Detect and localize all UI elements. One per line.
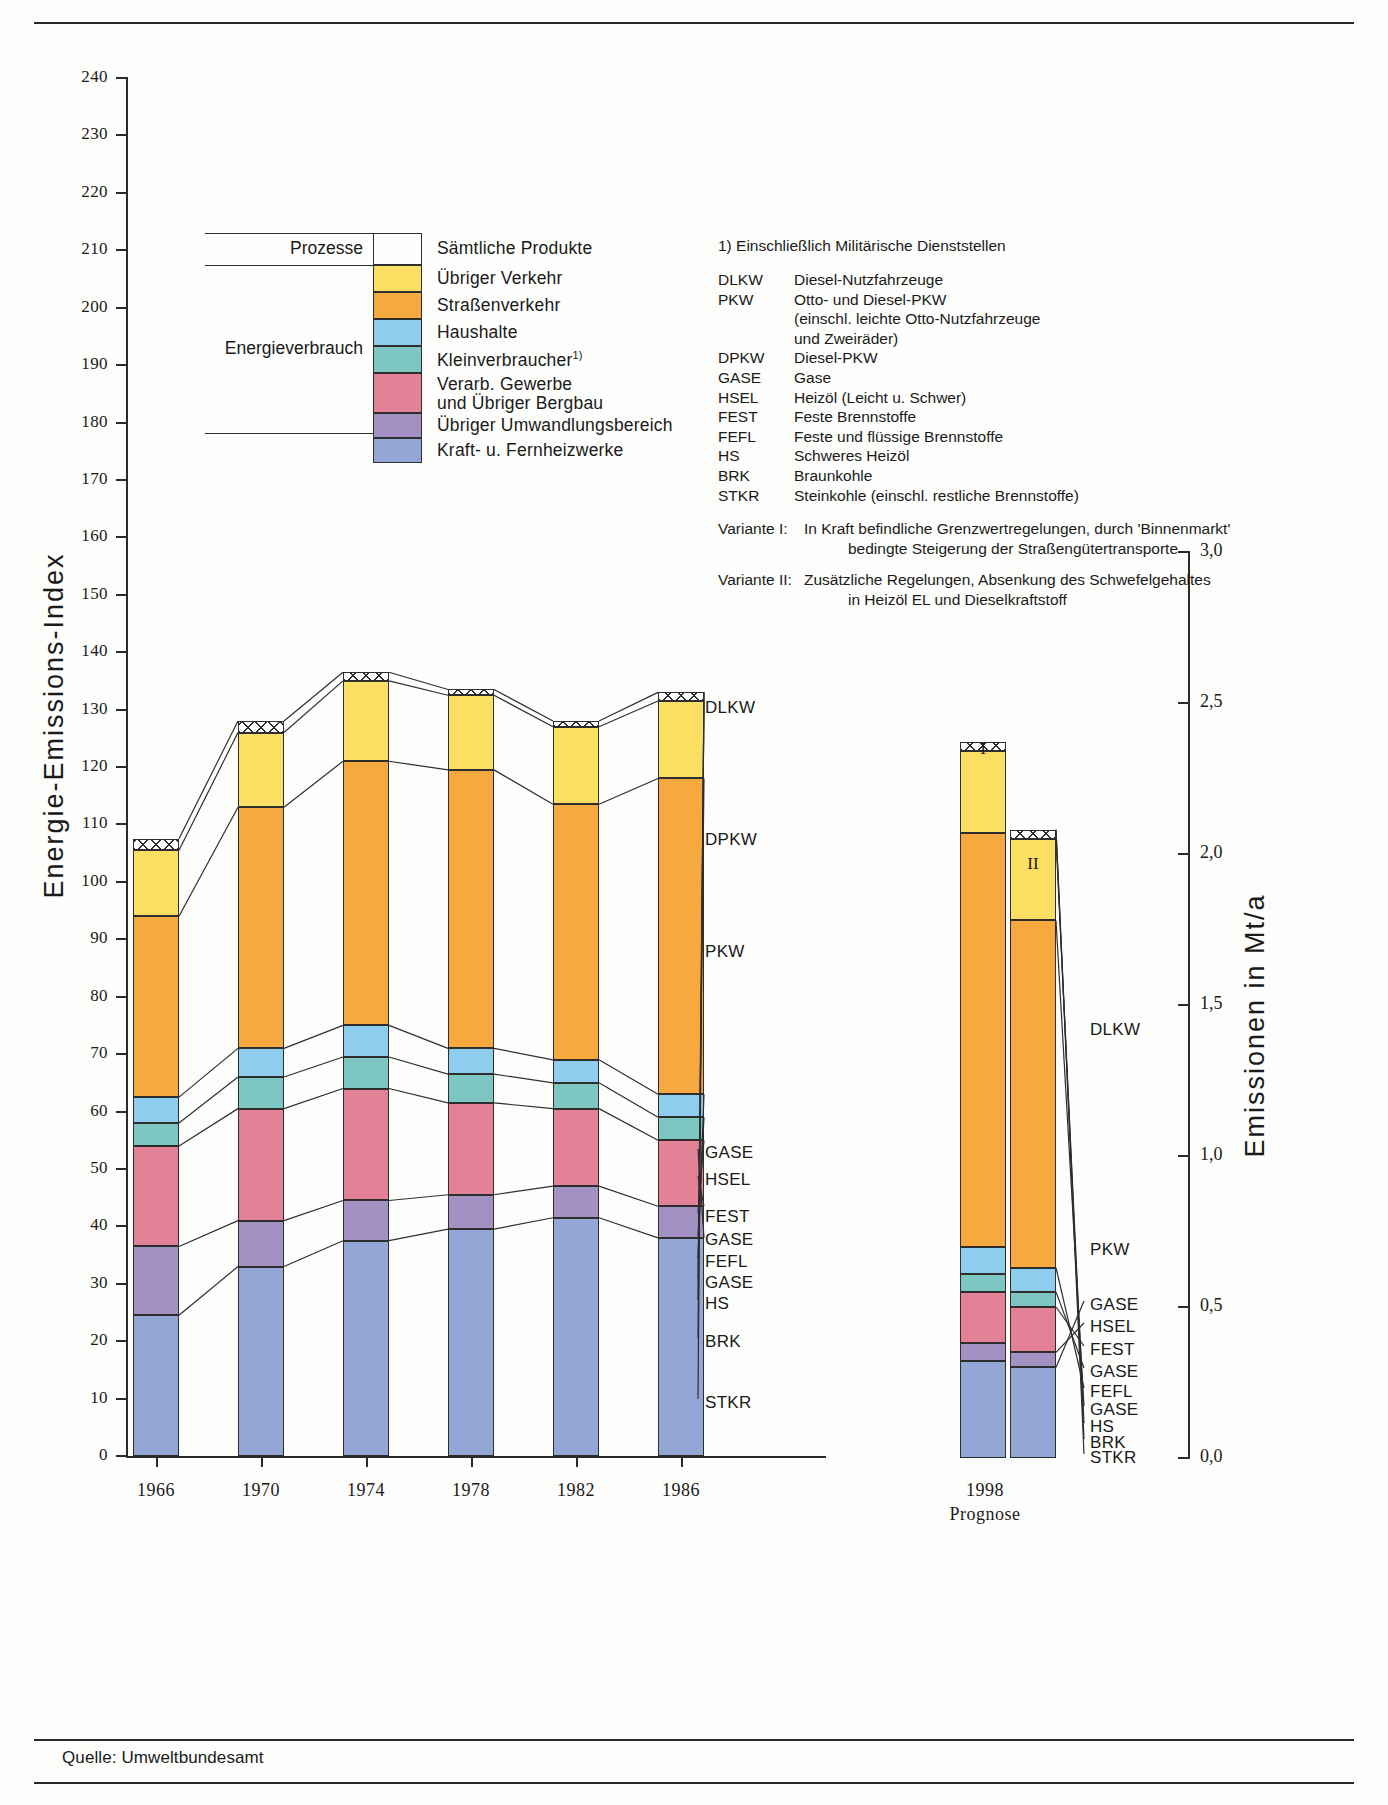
abbreviation-value: Steinkohle (einschl. restliche Brennstof… [794,486,1079,506]
legend-label-uebriger-umwandlungsbereich: Übriger Umwandlungsbereich [437,415,673,436]
x-tick-label: 1986 [641,1480,721,1501]
abbreviation-value: Gase [794,368,831,388]
abbreviation-row: BRKBraunkohle [718,466,1358,486]
y-tick-label: 150 [34,584,108,604]
bar-segment [658,1117,704,1140]
y-tick-label: 90 [34,928,108,948]
y-tick-label: 220 [34,182,108,202]
callout-label: FEFL [705,1252,748,1272]
abbreviation-row: PKWOtto- und Diesel-PKW [718,290,1358,310]
abbreviation-row: DPKWDiesel-PKW [718,348,1358,368]
bottom-divider [34,1739,1354,1741]
y-tick-mark [116,938,128,940]
abbreviation-row: STKRSteinkohle (einschl. restliche Brenn… [718,486,1358,506]
y-tick-label-right: 3,0 [1200,540,1223,561]
callout-label: FEST [705,1207,750,1227]
y-tick-mark [116,709,128,711]
y-tick-mark [116,134,128,136]
abbreviation-row: HSELHeizöl (Leicht u. Schwer) [718,388,1358,408]
legend-label-uebriger-verkehr: Übriger Verkehr [437,268,563,289]
y-tick-mark-right [1178,551,1190,553]
variant-marker: II [1018,854,1048,874]
bar-segment [133,850,179,916]
prozesse-label: Prozesse [205,238,363,259]
x-axis [126,1456,826,1458]
abbreviation-row: (einschl. leichte Otto-Nutzfahrzeuge [718,309,1358,329]
callout-label-forecast: GASE [1090,1295,1138,1315]
y-tick-mark [116,364,128,366]
abbreviation-key: GASE [718,368,792,388]
y-tick-mark [116,192,128,194]
y-tick-label: 240 [34,67,108,87]
y-tick-mark-right [1178,1155,1190,1157]
legend-label-strassenverkehr: Straßenverkehr [437,295,560,316]
bar-segment [133,1246,179,1315]
y-tick-mark [116,307,128,309]
bar-segment [448,695,494,770]
legend-swatch-uebriger-verkehr [373,265,422,292]
y-tick-mark [116,766,128,768]
y-tick-label: 130 [34,699,108,719]
energieverbrauch-brace-top [205,265,373,266]
y-tick-label-right: 2,5 [1200,691,1223,712]
bar-segment [1010,1268,1056,1292]
callout-label: DPKW [705,830,757,850]
y-tick-mark [116,249,128,251]
y-tick-label: 20 [34,1330,108,1350]
bar-segment [960,751,1006,833]
callout-label: BRK [705,1332,741,1352]
y-tick-mark [116,1225,128,1227]
abbreviation-key: HSEL [718,388,792,408]
y-tick-label: 50 [34,1158,108,1178]
bar-segment [960,1343,1006,1361]
y-tick-label: 190 [34,354,108,374]
y-tick-label: 70 [34,1043,108,1063]
y-tick-mark [116,1168,128,1170]
variant-line-2: bedingte Steigerung der Straßengütertran… [848,539,1178,559]
y-tick-label: 10 [34,1388,108,1408]
abbreviation-value: Braunkohle [794,466,872,486]
bar-segment [553,1083,599,1109]
chart-page: Quelle: Umweltbundesamt Energie-Emission… [0,0,1388,1805]
x-tick-label: 1982 [536,1480,616,1501]
abbreviation-row: FESTFeste Brennstoffe [718,407,1358,427]
callout-label-forecast: PKW [1090,1240,1130,1260]
bar-segment [238,1267,284,1456]
bar-segment [238,1048,284,1077]
legend-swatch-haushalte [373,319,422,346]
y-tick-mark [116,536,128,538]
bar-segment [448,1195,494,1229]
energieverbrauch-brace-bottom [205,433,373,434]
callout-label-forecast: FEFL [1090,1382,1133,1402]
legend-label-haushalte: Haushalte [437,322,518,343]
y-tick-mark [116,1053,128,1055]
x-tick-mark [366,1456,368,1467]
y-tick-label: 100 [34,871,108,891]
abbreviation-value: (einschl. leichte Otto-Nutzfahrzeuge [794,309,1040,329]
y-tick-label: 230 [34,124,108,144]
bar-segment [553,727,599,805]
y-tick-label-right: 2,0 [1200,842,1223,863]
callout-label: STKR [705,1393,752,1413]
abbreviation-value: und Zweiräder) [794,329,898,349]
callout-label-forecast: GASE [1090,1362,1138,1382]
abbreviation-value: Otto- und Diesel-PKW [794,290,946,310]
bar-segment [343,1241,389,1456]
abbreviation-key: FEST [718,407,792,427]
y-tick-mark [116,1455,128,1457]
bar-segment [238,721,284,732]
abbreviation-row: HSSchweres Heizöl [718,446,1358,466]
bar-segment [1010,1307,1056,1352]
x-tick-mark [681,1456,683,1467]
abbreviation-key: PKW [718,290,792,310]
bottom-divider-2 [34,1782,1354,1784]
callout-label: HS [705,1294,729,1314]
callout-label-forecast: HSEL [1090,1317,1136,1337]
y-tick-mark [116,1111,128,1113]
callout-label: GASE [705,1143,753,1163]
bar-segment [1010,920,1056,1267]
bar-segment [448,1048,494,1074]
x-tick-label: 1974 [326,1480,406,1501]
y-tick-label-right: 1,5 [1200,993,1223,1014]
callout-label: GASE [705,1230,753,1250]
